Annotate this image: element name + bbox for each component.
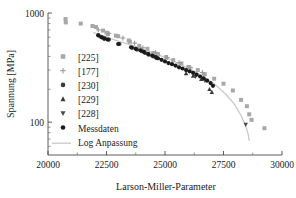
data-point-marker xyxy=(179,61,183,65)
legend-label: Messdaten xyxy=(78,124,119,134)
data-point-marker xyxy=(90,24,94,28)
legend-item[interactable]: [225] xyxy=(61,53,99,63)
data-point-marker xyxy=(142,50,146,54)
data-point-marker xyxy=(244,123,248,127)
data-point-marker xyxy=(116,42,120,46)
legend-item[interactable]: Messdaten xyxy=(61,124,119,134)
y-tick-label: 100 xyxy=(30,118,45,128)
legend-label: Log Anpassung xyxy=(78,138,138,148)
chart-legend: [225][177][230][229][228]MessdatenLog An… xyxy=(52,53,138,148)
data-point-marker xyxy=(145,47,149,51)
legend-label: [225] xyxy=(78,53,99,63)
data-point-marker xyxy=(60,68,66,74)
y-axis-title: Spannung [MPa] xyxy=(5,50,16,118)
data-point-marker xyxy=(146,52,150,56)
legend-item[interactable]: [177] xyxy=(60,67,98,77)
data-point-marker xyxy=(245,104,249,108)
x-tick-label: 20000 xyxy=(36,160,60,170)
chart-plot-area: 20000225002500027500300001001000 [225][1… xyxy=(0,0,296,198)
data-point-marker xyxy=(211,84,215,88)
data-point-marker xyxy=(212,77,216,81)
data-point-marker xyxy=(61,125,66,130)
data-point-marker xyxy=(129,45,133,49)
data-point-marker xyxy=(64,20,68,24)
legend-label: [230] xyxy=(78,81,99,91)
data-point-marker xyxy=(205,79,209,83)
data-point-marker xyxy=(96,33,100,37)
x-tick-label: 27500 xyxy=(212,160,236,170)
data-point-marker xyxy=(60,111,65,116)
data-point-marker xyxy=(60,96,65,101)
data-point-marker xyxy=(94,25,98,29)
legend-item[interactable]: Log Anpassung xyxy=(52,138,138,148)
data-point-marker xyxy=(128,40,132,44)
data-point-marker xyxy=(134,47,138,51)
data-point-marker xyxy=(262,126,266,130)
data-point-marker xyxy=(231,88,235,92)
data-point-marker xyxy=(239,98,243,102)
legend-item[interactable]: [229] xyxy=(60,95,98,105)
legend-item[interactable]: [228] xyxy=(60,109,98,119)
x-tick-label: 22500 xyxy=(95,160,119,170)
legend-label: [229] xyxy=(78,95,99,105)
data-point-marker xyxy=(222,82,226,86)
legend-label: [228] xyxy=(78,109,99,119)
data-point-marker xyxy=(207,87,211,91)
data-point-marker xyxy=(132,41,137,46)
axis-tick-labels: 20000225002500027500300001001000 xyxy=(25,9,294,171)
x-tick-label: 30000 xyxy=(270,160,294,170)
chart-container: 20000225002500027500300001001000 [225][1… xyxy=(0,0,296,198)
x-tick-label: 25000 xyxy=(153,160,177,170)
data-point-marker xyxy=(79,22,83,26)
y-tick-label: 1000 xyxy=(25,9,44,19)
data-point-marker xyxy=(61,83,66,88)
legend-label: [177] xyxy=(78,67,99,77)
data-point-marker xyxy=(106,37,110,41)
data-point-marker xyxy=(61,54,66,59)
data-point-marker xyxy=(196,68,200,72)
data-point-marker xyxy=(116,34,120,38)
data-point-marker xyxy=(250,118,254,122)
legend-item[interactable]: [230] xyxy=(61,81,99,91)
data-point-marker xyxy=(247,112,251,116)
x-axis-title: Larson-Miller-Parameter xyxy=(116,181,216,192)
data-point-marker xyxy=(101,29,105,33)
data-point-marker xyxy=(171,58,175,62)
data-point-marker xyxy=(202,76,206,80)
data-point-marker xyxy=(120,36,125,41)
series-messdaten xyxy=(96,33,215,88)
